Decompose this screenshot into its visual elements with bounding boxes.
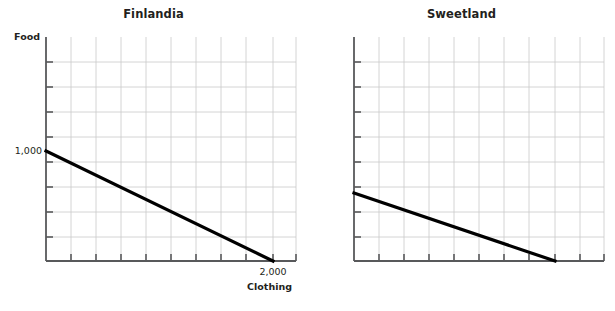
- ppf-line-finlandia: [46, 151, 273, 261]
- y-tick-label-finlandia: 1,000: [0, 145, 42, 156]
- grid-vertical-lines-sweetland: [379, 37, 604, 261]
- plot-area-finlandia: [46, 37, 296, 261]
- x-axis-ticks-sweetland: [379, 254, 604, 261]
- x-axis-label-finlandia: Clothing: [180, 281, 292, 292]
- grid-vertical-lines-finlandia: [71, 37, 296, 261]
- chart-title-sweetland: Sweetland: [308, 7, 615, 21]
- chart-panel-sweetland: Sweetland: [308, 0, 615, 311]
- figure-canvas: Finlandia: [0, 0, 615, 311]
- y-axis-ticks-finlandia: [46, 62, 53, 237]
- chart-title-finlandia: Finlandia: [0, 7, 307, 21]
- y-axis-ticks-sweetland: [354, 62, 361, 237]
- plot-svg-sweetland: [354, 37, 604, 261]
- plot-svg-finlandia: [46, 37, 296, 261]
- x-tick-label-finlandia: 2,000: [248, 266, 298, 277]
- ppf-line-sweetland: [354, 193, 555, 261]
- plot-area-sweetland: [354, 37, 604, 261]
- y-axis-label-finlandia: Food: [8, 31, 40, 42]
- chart-panel-finlandia: Finlandia: [0, 0, 307, 311]
